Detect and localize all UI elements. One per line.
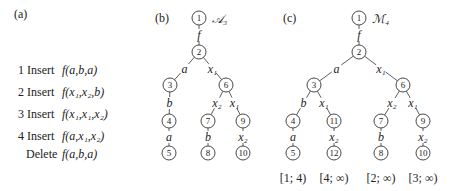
panel-b-tag: (b) xyxy=(155,11,169,25)
op-term: f(a,x₁,x₂) xyxy=(62,129,104,143)
tree-node: 6 xyxy=(219,78,233,92)
tree-node: 3 xyxy=(163,78,177,92)
panel-c: (c) ℳ₄ fax₁bx₁ax₂x₂x₁bx₂ 123451112678910… xyxy=(280,11,438,185)
operation-row: 3 Insert f(x₁,x₁,x₂) xyxy=(18,107,108,121)
tree-node: 5 xyxy=(286,146,300,160)
tree-edge: x₁ xyxy=(203,57,221,79)
tree-node: 8 xyxy=(374,146,388,160)
op-term: f(x₁,x₂,b) xyxy=(62,85,104,99)
edge-line xyxy=(175,73,181,80)
panel-b-title: 𝒜₃ xyxy=(212,12,227,26)
operations-list: 1 Insert f(a,b,a) 2 Insert f(x₁,x₂,b) 3 … xyxy=(18,63,108,161)
edge-label: x₂ xyxy=(328,130,339,144)
tree-node: 4 xyxy=(162,114,176,128)
operation-row: 2 Insert f(x₁,x₂,b) xyxy=(18,85,104,99)
edge-label: x₁ xyxy=(229,96,240,110)
leaf-interval-label: [3; ∞) xyxy=(409,171,438,185)
tree-edge: x₂ xyxy=(211,91,223,114)
node-id: 5 xyxy=(167,148,172,158)
op-term: f(a,b,a) xyxy=(62,63,97,77)
node-id: 5 xyxy=(291,148,296,158)
tree-edge: x₂ xyxy=(417,128,428,146)
edge-line xyxy=(307,91,311,98)
tree-node: 12 xyxy=(327,146,341,160)
node-id: 10 xyxy=(419,148,429,158)
tree-edge: f xyxy=(357,25,362,45)
node-id: 9 xyxy=(421,116,426,126)
tree-node: 6 xyxy=(396,78,410,92)
leaf-interval-label: [4; ∞) xyxy=(320,171,349,185)
node-id: 8 xyxy=(379,148,384,158)
tree-edge: b xyxy=(378,128,384,146)
edge-line xyxy=(188,57,194,64)
node-id: 2 xyxy=(197,47,202,57)
tree-edge: a xyxy=(290,128,296,146)
tree-node: 2 xyxy=(352,45,366,59)
panel-c-tag: (c) xyxy=(283,11,296,25)
node-id: 9 xyxy=(241,116,246,126)
diagram-canvas: (a) 1 Insert f(a,b,a) 2 Insert f(x₁,x₂,b… xyxy=(0,0,450,191)
edge-label: x₂ xyxy=(211,96,222,110)
edge-label: x₁ xyxy=(318,96,329,110)
leaf-interval-label: [1; 4) xyxy=(280,171,306,185)
tree-edge: a xyxy=(166,128,172,146)
op-term: f(x₁,x₁,x₂) xyxy=(62,107,108,121)
panel-c-title: ℳ₄ xyxy=(372,12,389,26)
operation-row: 4 Insert f(a,x₁,x₂) xyxy=(18,129,104,143)
panel-a: (a) 1 Insert f(a,b,a) 2 Insert f(x₁,x₂,b… xyxy=(14,7,108,161)
op-term: f(a,b,a) xyxy=(62,147,97,161)
operation-row: Delete f(a,b,a) xyxy=(26,147,97,161)
edge-label: x₂ xyxy=(417,130,428,144)
edge-label: x₂ xyxy=(386,96,397,110)
tree-node: 10 xyxy=(236,146,250,160)
edge-label: a xyxy=(290,130,296,144)
tree-node: 5 xyxy=(162,146,176,160)
tree-edge: a xyxy=(320,56,354,81)
node-id: 3 xyxy=(312,80,317,90)
tree-node: 3 xyxy=(307,78,321,92)
edge-label: x₁ xyxy=(407,96,418,110)
edge-line xyxy=(386,72,398,81)
edge-label: b xyxy=(378,130,384,144)
leaf-intervals: [1; 4)[4; ∞)[2; ∞)[3; ∞) xyxy=(280,171,438,185)
node-id: 12 xyxy=(330,148,339,158)
tree-edge: x₂ xyxy=(385,91,400,115)
tree-node: 1 xyxy=(192,11,206,25)
tree-edge: b xyxy=(205,128,211,146)
edge-label: f xyxy=(357,28,362,42)
tree-edge: b xyxy=(297,91,311,115)
tree-node: 4 xyxy=(286,114,300,128)
node-id: 4 xyxy=(167,116,172,126)
edge-label: b xyxy=(205,130,211,144)
tree-edge: f xyxy=(197,25,202,45)
edge-label: x₁ xyxy=(207,62,218,76)
tree-edge: x₁ xyxy=(406,91,419,115)
tree-node: 1 xyxy=(352,11,366,25)
node-id: 3 xyxy=(168,80,173,90)
edge-label: a xyxy=(166,130,172,144)
edge-line xyxy=(341,56,353,65)
node-id: 6 xyxy=(401,80,406,90)
tree-node: 9 xyxy=(416,114,430,128)
edge-label: a xyxy=(182,62,188,76)
tree-node: 8 xyxy=(201,146,215,160)
edge-label: x₁ xyxy=(375,62,386,76)
panel-b: (b) 𝒜₃ fax₁bax₂x₁bx₂ 12345678910 xyxy=(155,11,250,160)
tree-edge: x₂ xyxy=(328,128,339,146)
op-step-label: Delete xyxy=(26,147,57,161)
op-step-label: 4 Insert xyxy=(18,129,55,143)
node-id: 11 xyxy=(330,116,339,126)
node-id: 4 xyxy=(291,116,296,126)
tree-node: 10 xyxy=(416,146,430,160)
tree-node: 7 xyxy=(374,114,388,128)
edge-line xyxy=(365,56,377,65)
operation-row: 1 Insert f(a,b,a) xyxy=(18,63,97,77)
op-step-label: 3 Insert xyxy=(18,107,55,121)
panel-a-tag: (a) xyxy=(14,7,27,21)
leaf-interval-label: [2; ∞) xyxy=(367,171,396,185)
node-id: 1 xyxy=(197,13,202,23)
node-id: 7 xyxy=(379,116,384,126)
edge-label: a xyxy=(334,62,340,76)
tree-edge: x₁ xyxy=(365,56,398,81)
tree-node: 2 xyxy=(192,45,206,59)
